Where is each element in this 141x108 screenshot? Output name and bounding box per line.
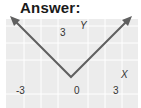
x-axis-label: X [120,69,128,80]
absolute-value-graph: Y X 3 -3 0 3 [0,0,141,108]
y-tick-3: 3 [60,27,66,38]
x-tick-0: 0 [74,85,80,96]
x-tick-3: 3 [113,85,119,96]
x-tick-neg3: -3 [16,85,25,96]
